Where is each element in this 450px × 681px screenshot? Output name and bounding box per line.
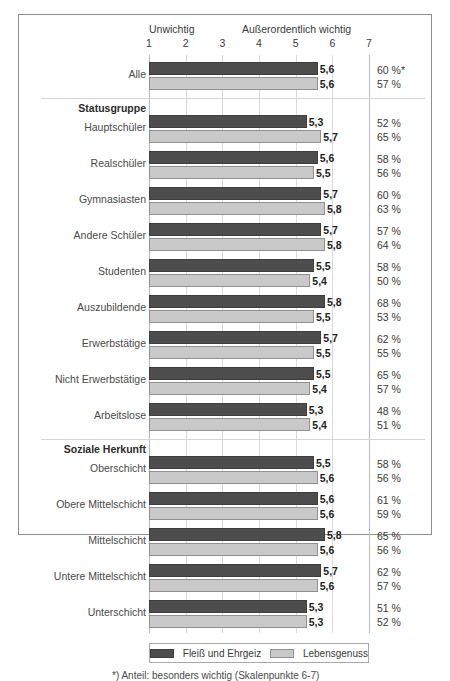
percent-light: 64 % <box>377 239 401 253</box>
axis-tick-1: 1 <box>141 37 157 49</box>
row-percentages: 58 %50 % <box>377 261 401 288</box>
bar-value-dark: 5,3 <box>309 601 324 613</box>
row-bars: 5,55,4 <box>149 367 314 397</box>
bar-value-dark: 5,7 <box>323 224 338 236</box>
row-label: Alle <box>128 68 146 80</box>
chart-footnote: *) Anteil: besonders wichtig (Skalenpunk… <box>112 670 319 681</box>
row-bars: 5,75,8 <box>149 223 325 253</box>
percent-dark: 58 % <box>377 261 401 275</box>
chart-frame: Unwichtig Außerordentlich wichtig 123456… <box>18 14 432 535</box>
percent-dark: 48 % <box>377 405 401 419</box>
axis-tick-5: 5 <box>288 37 304 49</box>
bar-dark: 5,6 <box>149 62 318 75</box>
bar-value-dark: 5,6 <box>320 152 335 164</box>
percent-light: 57 % <box>377 580 401 594</box>
bar-dark: 5,5 <box>149 367 314 380</box>
row-bars: 5,65,5 <box>149 151 318 181</box>
bar-light: 5,8 <box>149 238 325 251</box>
percent-light: 56 % <box>377 167 401 181</box>
row-percentages: 58 %56 % <box>377 458 401 485</box>
row-bars: 5,85,6 <box>149 528 325 558</box>
bar-value-dark: 5,5 <box>316 368 331 380</box>
chart-axis-header: Unwichtig Außerordentlich wichtig 123456… <box>19 15 433 57</box>
percent-light: 57 % <box>377 383 401 397</box>
row-label: Mittelschicht <box>88 534 146 546</box>
row-bars: 5,75,8 <box>149 187 325 217</box>
row-label: Realschüler <box>91 157 146 169</box>
percent-light: 51 % <box>377 419 401 433</box>
bar-value-dark: 5,7 <box>323 188 338 200</box>
row-bars: 5,65,6 <box>149 492 318 522</box>
bar-light: 5,6 <box>149 77 318 90</box>
bar-dark: 5,3 <box>149 403 307 416</box>
group-separator <box>41 439 425 440</box>
legend-label-dark: Fleiß und Ehrgeiz <box>183 648 261 659</box>
percent-dark: 57 % <box>377 225 401 239</box>
bar-value-light: 5,6 <box>320 472 335 484</box>
chart-plot-area: Alle5,65,660 %*57 %StatusgruppeHauptschü… <box>19 55 433 633</box>
percent-dark: 58 % <box>377 458 401 472</box>
bar-light: 5,8 <box>149 202 325 215</box>
chart-row: Erwerbstätige5,75,562 %55 % <box>19 328 433 364</box>
row-percentages: 68 %53 % <box>377 297 401 324</box>
bar-dark: 5,3 <box>149 115 307 128</box>
bar-value-light: 5,4 <box>312 419 327 431</box>
chart-row: Andere Schüler5,75,857 %64 % <box>19 220 433 256</box>
percent-dark: 51 % <box>377 602 401 616</box>
percent-dark: 60 %* <box>377 64 405 78</box>
row-percentages: 57 %64 % <box>377 225 401 252</box>
percent-light: 57 % <box>377 78 405 92</box>
bar-value-light: 5,7 <box>323 131 338 143</box>
percent-light: 56 % <box>377 544 401 558</box>
group-separator <box>41 98 425 99</box>
bar-value-light: 5,5 <box>316 167 331 179</box>
legend-swatch-dark <box>150 649 174 658</box>
chart-row: Hauptschüler5,35,752 %65 % <box>19 112 433 148</box>
bar-light: 5,4 <box>149 274 310 287</box>
chart-row: Oberschicht5,55,658 %56 % <box>19 453 433 489</box>
bar-value-light: 5,6 <box>320 580 335 592</box>
axis-tick-3: 3 <box>214 37 230 49</box>
row-label: Gymnasiasten <box>79 193 146 205</box>
row-bars: 5,35,4 <box>149 403 310 433</box>
bar-light: 5,5 <box>149 346 314 359</box>
percent-light: 56 % <box>377 472 401 486</box>
row-percentages: 52 %65 % <box>377 117 401 144</box>
bar-value-light: 5,8 <box>327 239 342 251</box>
bar-dark: 5,7 <box>149 187 321 200</box>
bar-light: 5,6 <box>149 471 318 484</box>
percent-light: 52 % <box>377 616 401 630</box>
percent-light: 63 % <box>377 203 401 217</box>
axis-tick-4: 4 <box>251 37 267 49</box>
bar-light: 5,5 <box>149 166 314 179</box>
percent-dark: 62 % <box>377 566 401 580</box>
bar-light: 5,6 <box>149 543 318 556</box>
bar-light: 5,3 <box>149 615 307 628</box>
row-bars: 5,35,7 <box>149 115 321 145</box>
bar-light: 5,7 <box>149 130 321 143</box>
row-bars: 5,35,3 <box>149 600 307 630</box>
bar-value-dark: 5,7 <box>323 332 338 344</box>
bar-light: 5,4 <box>149 382 310 395</box>
chart-row: Unterschicht5,35,351 %52 % <box>19 597 433 633</box>
axis-tick-2: 2 <box>178 37 194 49</box>
row-label: Andere Schüler <box>74 229 146 241</box>
bar-value-light: 5,3 <box>309 616 324 628</box>
bar-value-light: 5,6 <box>320 544 335 556</box>
percent-light: 53 % <box>377 311 401 325</box>
row-label: Auszubildende <box>77 301 146 313</box>
percent-dark: 65 % <box>377 369 401 383</box>
bar-value-light: 5,4 <box>312 383 327 395</box>
chart-row: Alle5,65,660 %*57 % <box>19 59 433 95</box>
row-bars: 5,75,6 <box>149 564 321 594</box>
row-percentages: 60 %*57 % <box>377 64 405 91</box>
row-label: Erwerbstätige <box>82 337 146 349</box>
percent-dark: 52 % <box>377 117 401 131</box>
bar-light: 5,6 <box>149 507 318 520</box>
legend-swatch-light <box>270 649 294 658</box>
chart-row: Nicht Erwerbstätige5,55,465 %57 % <box>19 364 433 400</box>
bar-value-dark: 5,3 <box>309 116 324 128</box>
percent-dark: 68 % <box>377 297 401 311</box>
bar-value-dark: 5,7 <box>323 565 338 577</box>
row-percentages: 48 %51 % <box>377 405 401 432</box>
